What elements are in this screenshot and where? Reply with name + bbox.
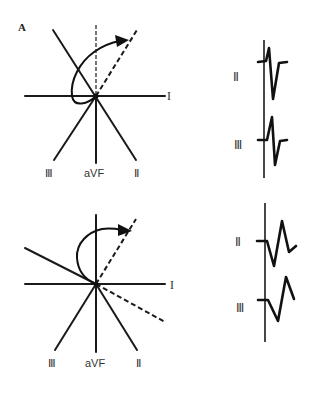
lead-ii-axis	[96, 284, 137, 350]
top-hexaxial-diagram: I Ⅲ aVF Ⅱ	[25, 25, 171, 179]
label-lead-ii: Ⅱ	[134, 167, 139, 179]
label-lead-iii: Ⅲ	[48, 357, 56, 369]
origin-point	[94, 94, 99, 99]
label-lead-iii: Ⅲ	[45, 167, 53, 179]
ecg-lead-iii-waveform	[258, 277, 294, 321]
panel-label: A	[18, 21, 26, 33]
ecg-label-lead-ii: Ⅱ	[233, 70, 239, 84]
arrowhead-icon	[118, 224, 132, 236]
top-ecg-tracings: Ⅱ Ⅲ	[233, 40, 287, 178]
lead-iii-axis	[55, 284, 96, 350]
ecg-lead-ii-waveform	[257, 221, 296, 266]
bottom-hexaxial-diagram: I Ⅲ aVF Ⅱ	[25, 215, 174, 369]
label-lead-i: I	[170, 278, 174, 292]
label-lead-avf: aVF	[85, 357, 105, 369]
ecg-lead-ii-waveform	[258, 48, 287, 99]
ecg-axis-figure: A I Ⅲ aVF Ⅱ Ⅱ Ⅲ	[0, 0, 310, 393]
lead-iii-axis	[54, 96, 96, 160]
ecg-label-lead-iii: Ⅲ	[234, 138, 242, 152]
activation-loop	[77, 229, 122, 284]
label-lead-avf: aVF	[84, 167, 104, 179]
bottom-ecg-tracings: Ⅱ Ⅲ	[235, 203, 296, 342]
label-lead-i: I	[167, 89, 171, 103]
ecg-label-lead-iii: Ⅲ	[236, 301, 244, 315]
ecg-label-lead-ii: Ⅱ	[235, 235, 241, 249]
label-lead-ii: Ⅱ	[136, 357, 141, 369]
ecg-lead-iii-waveform	[258, 117, 287, 165]
origin-point	[94, 282, 99, 287]
rotated-axis-right-dashed	[96, 284, 165, 322]
